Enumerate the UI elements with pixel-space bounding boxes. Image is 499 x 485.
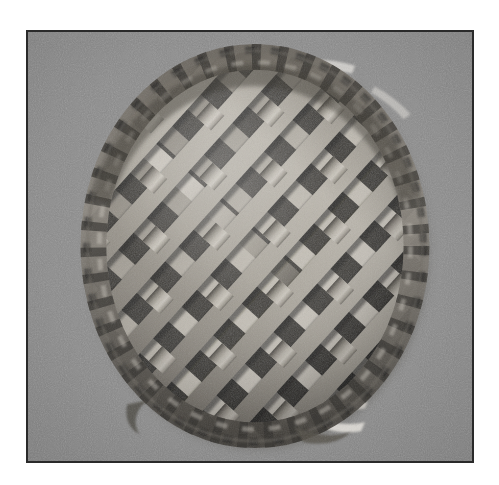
lattice-pie-photo [28, 32, 472, 461]
page-canvas: Lattice-top pie [0, 0, 499, 485]
photo-frame [26, 30, 474, 463]
print-grain-overlay [28, 32, 472, 461]
